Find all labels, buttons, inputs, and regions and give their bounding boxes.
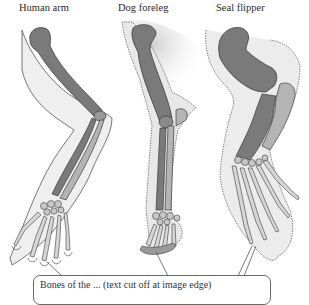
seal-flipper-figure <box>206 27 300 260</box>
dog-foreleg-figure <box>122 20 210 255</box>
caption-box: Bones of the ... (text cut off at image … <box>33 275 271 305</box>
human-elbow <box>94 111 106 121</box>
caption-text: Bones of the ... (text cut off at image … <box>40 279 211 290</box>
human-arm-figure <box>10 28 112 266</box>
